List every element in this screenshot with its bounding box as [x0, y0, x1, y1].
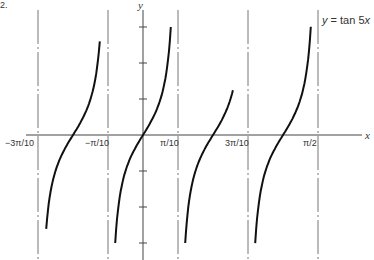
tan-5x-plot: 2. x y −3π/10 −π/10 π/10 3π/10 π/2 y = t…: [0, 0, 374, 260]
tick-label: π/10: [160, 138, 179, 148]
tick-label: 3π/10: [225, 138, 249, 148]
tick-label: −3π/10: [5, 138, 34, 148]
equation-label: y = tan 5x: [321, 14, 371, 26]
x-tick-labels: −3π/10 −π/10 π/10 3π/10 π/2: [5, 138, 317, 148]
tan-branch: [185, 90, 233, 243]
y-axis-label: y: [137, 0, 143, 11]
figure-number: 2.: [0, 0, 8, 10]
x-axis-label: x: [364, 129, 370, 141]
tick-label: −π/10: [85, 138, 109, 148]
equation-x: x: [364, 14, 371, 26]
equation-body: = tan 5: [328, 14, 365, 26]
tick-label: π/2: [303, 138, 317, 148]
